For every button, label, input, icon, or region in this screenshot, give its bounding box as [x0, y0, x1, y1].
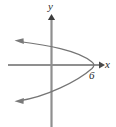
parabola-figure: y x 6	[0, 0, 116, 127]
y-axis-label: y	[48, 1, 53, 12]
x-intercept-label: 6	[89, 70, 95, 81]
y-axis-arrow-icon	[48, 14, 55, 20]
curve-lower-arrow-icon	[15, 98, 24, 104]
x-axis-label: x	[105, 59, 110, 70]
graph-canvas	[0, 0, 116, 127]
parabola-curve	[19, 42, 94, 101]
curve-upper-arrow-icon	[15, 38, 24, 44]
